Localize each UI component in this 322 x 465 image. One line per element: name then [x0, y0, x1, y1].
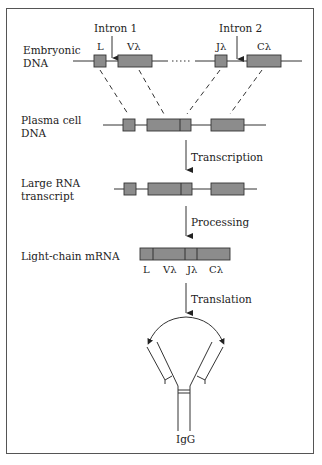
segment-label-l-top: L	[97, 41, 104, 52]
large-rna-label-2: transcript	[21, 190, 75, 202]
igg-antibody	[147, 342, 223, 431]
segment-label-c-mrna: Cλ	[209, 264, 224, 275]
embryonic-segment-v	[118, 55, 152, 67]
embryonic-dna-label-2: DNA	[23, 57, 49, 69]
segment-label-c-top: Cλ	[257, 41, 272, 52]
plasma-cell-dna-label-2: DNA	[21, 127, 47, 139]
embryonic-dna-label-1: Embryonic	[23, 44, 81, 56]
intron-1-label: Intron 1	[94, 22, 137, 34]
processing-label: Processing	[191, 216, 249, 228]
igg-label: IgG	[176, 433, 195, 445]
translation-label: Translation	[191, 293, 252, 305]
right-light-chain	[197, 347, 223, 384]
segment-label-j-top: Jλ	[215, 41, 227, 52]
right-curved-arrow	[186, 317, 223, 342]
large-rna-label-1: Large RNA	[21, 177, 81, 189]
embryonic-segment-l	[94, 55, 106, 67]
large-rna-strand	[114, 183, 257, 195]
segment-label-v-top: Vλ	[126, 41, 141, 52]
plasma-cell-dna-label-1: Plasma cell	[21, 114, 82, 126]
embryonic-segment-c	[247, 55, 281, 67]
left-curved-arrow	[149, 317, 186, 342]
segment-label-l-mrna: L	[143, 264, 150, 275]
transcription-label: Transcription	[191, 151, 263, 163]
rearrangement-lines	[100, 70, 262, 114]
ig-light-chain-diagram: Embryonic DNA Plasma cell DNA Large RNA …	[0, 0, 322, 465]
embryonic-dna-strand	[73, 55, 302, 67]
light-chain-mrna-label: Light-chain mRNA	[21, 250, 120, 262]
intron-2-label: Intron 2	[219, 22, 262, 34]
segment-label-j-mrna: Jλ	[186, 264, 198, 275]
plasma-cell-dna-strand	[103, 119, 266, 131]
segment-label-v-mrna: Vλ	[162, 264, 177, 275]
light-chain-mrna-strand	[140, 248, 230, 260]
embryonic-segment-j	[215, 55, 227, 67]
